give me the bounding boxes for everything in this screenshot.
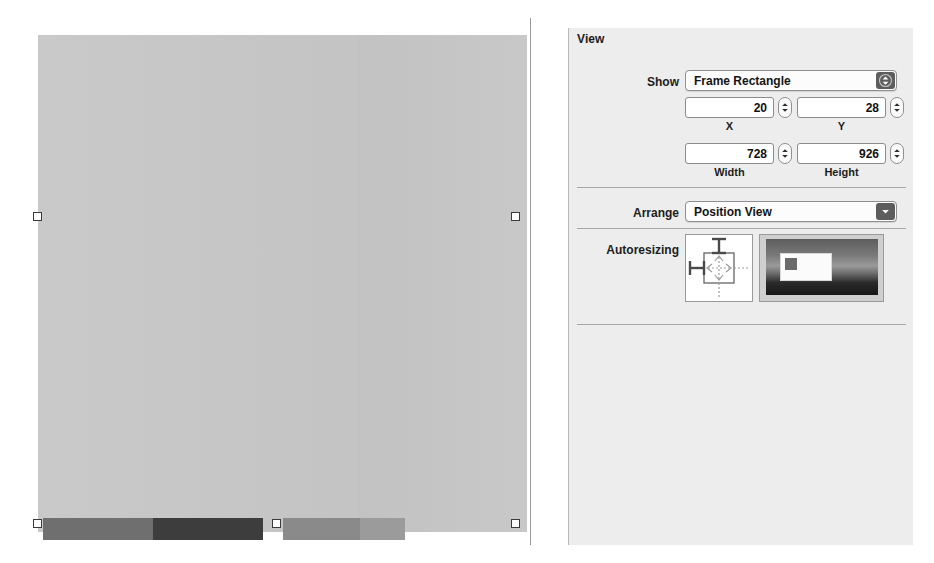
bottom-bar-segment-1: [43, 518, 153, 540]
bottom-bar-segment-3: [283, 518, 360, 540]
show-label: Show: [599, 75, 679, 89]
height-field-value: 926: [859, 147, 879, 161]
selection-handle-middle-left[interactable]: [33, 212, 42, 221]
surface-shade-left: [38, 35, 358, 532]
selection-handle-bottom-center[interactable]: [272, 519, 281, 528]
arrange-pulldown-button[interactable]: Position View: [685, 201, 897, 222]
surface-shade-right: [358, 35, 527, 532]
autoresizing-springs-struts-control[interactable]: [685, 234, 753, 302]
autoresizing-animation-preview: [759, 234, 884, 302]
y-stepper[interactable]: [890, 97, 904, 118]
width-field[interactable]: 728: [685, 143, 774, 164]
design-canvas[interactable]: [0, 0, 531, 563]
selection-handle-bottom-left[interactable]: [33, 519, 42, 528]
y-field-value: 28: [866, 101, 879, 115]
show-popup-value: Frame Rectangle: [694, 74, 791, 88]
arrange-value: Position View: [694, 205, 772, 219]
x-label: X: [685, 120, 774, 132]
preview-backdrop-image: [766, 239, 878, 295]
x-stepper[interactable]: [778, 97, 792, 118]
preview-window: [780, 253, 832, 281]
canvas-panel-divider: [530, 18, 531, 545]
selection-handle-bottom-right[interactable]: [511, 519, 520, 528]
view-design-surface[interactable]: [38, 35, 527, 532]
autoresizing-label: Autoresizing: [569, 243, 679, 257]
height-stepper[interactable]: [890, 143, 904, 164]
show-popup-button[interactable]: Frame Rectangle: [685, 70, 897, 91]
height-field[interactable]: 926: [797, 143, 886, 164]
x-field[interactable]: 20: [685, 97, 774, 118]
bottom-bar-segment-2: [153, 518, 263, 540]
width-field-value: 728: [747, 147, 767, 161]
height-label: Height: [797, 166, 886, 178]
panel-title: View: [577, 32, 605, 46]
width-stepper[interactable]: [778, 143, 792, 164]
inspector-empty-region: [569, 325, 914, 545]
x-field-value: 20: [754, 101, 767, 115]
width-label: Width: [685, 166, 774, 178]
chevron-down-icon: [876, 203, 895, 220]
bottom-bar-segment-4: [360, 518, 405, 540]
selection-handle-middle-right[interactable]: [511, 212, 520, 221]
separator-above-autoresizing: [577, 228, 906, 229]
view-inspector-panel: View Show Frame Rectangle 20 X 28 Y: [568, 28, 913, 545]
up-down-chevron-icon: [876, 72, 895, 89]
y-label: Y: [797, 120, 886, 132]
separator-above-arrange: [577, 187, 906, 188]
y-field[interactable]: 28: [797, 97, 886, 118]
preview-subview: [785, 258, 797, 270]
arrange-label: Arrange: [584, 206, 679, 220]
